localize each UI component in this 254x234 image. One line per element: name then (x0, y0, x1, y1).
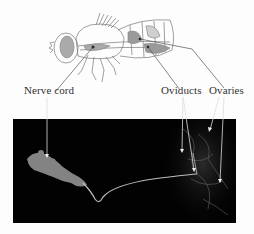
label-ovaries: Ovaries (209, 84, 244, 96)
label-nerve-cord: Nerve cord (24, 84, 74, 96)
label-oviducts: Oviducts (161, 84, 202, 96)
fluorescence-micrograph (13, 119, 236, 223)
